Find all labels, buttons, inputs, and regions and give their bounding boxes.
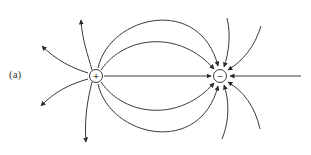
field-line-in-bottom — [222, 85, 228, 139]
field-line-arc-outer-bottom — [98, 84, 218, 132]
field-line-out-down — [85, 82, 92, 142]
dipole-field-diagram: (a) + − — [0, 0, 311, 155]
field-line-in-upright — [228, 26, 261, 70]
field-line-in-top — [224, 18, 229, 67]
positive-sign: + — [93, 72, 100, 81]
field-line-out-up — [81, 20, 92, 70]
field-line-arc-outer-top — [98, 20, 218, 68]
field-lines-canvas: + − — [0, 0, 311, 155]
negative-sign: − — [217, 72, 224, 81]
field-line-arc-inner-bottom — [101, 82, 214, 110]
positive-charge: + — [90, 70, 103, 83]
field-line-in-downright — [228, 82, 260, 129]
negative-charge: − — [214, 70, 227, 83]
field-line-out-downleft — [41, 79, 88, 106]
field-line-out-upleft — [42, 46, 88, 73]
field-line-arc-inner-top — [101, 42, 214, 70]
